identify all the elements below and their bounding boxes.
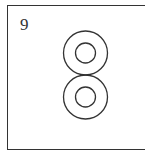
upper-inner-circle [76,43,96,63]
lower-inner-circle [76,87,96,107]
upper-outer-circle [64,31,108,75]
concentric-circles-figure [0,0,145,160]
upper-circle-group [64,31,108,75]
lower-outer-circle [64,75,108,119]
lower-circle-group [64,75,108,119]
